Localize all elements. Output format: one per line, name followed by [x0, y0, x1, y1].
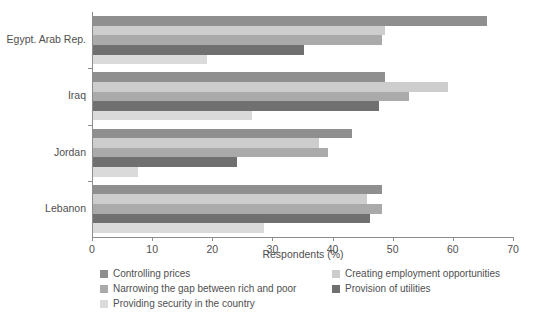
- bar-chart: 010203040506070 Egypt. Arab Rep.IraqJord…: [0, 0, 536, 323]
- x-tick-mark: [393, 237, 394, 241]
- bar-group: [93, 72, 514, 120]
- bar: [93, 223, 264, 233]
- x-tick-mark: [513, 237, 514, 241]
- legend-label: Providing security in the country: [113, 299, 255, 309]
- x-tick-mark: [333, 237, 334, 241]
- legend-row: Narrowing the gap between rich and poorP…: [100, 284, 520, 299]
- legend-swatch-icon: [100, 270, 108, 278]
- legend-item[interactable]: Creating employment opportunities: [332, 269, 500, 279]
- bar: [93, 167, 138, 177]
- legend-label: Creating employment opportunities: [345, 269, 500, 279]
- bar: [93, 138, 319, 148]
- bar: [93, 204, 382, 214]
- bar: [93, 148, 328, 158]
- legend-row: Controlling pricesCreating employment op…: [100, 269, 520, 284]
- bar: [93, 194, 367, 204]
- legend-label: Controlling prices: [113, 269, 190, 279]
- x-tick-mark: [212, 237, 213, 241]
- y-group-tick: [88, 181, 92, 182]
- x-tick-mark: [453, 237, 454, 241]
- legend-item[interactable]: Narrowing the gap between rich and poor: [100, 284, 332, 294]
- y-group-tick: [88, 68, 92, 69]
- bar-group: [93, 185, 514, 233]
- x-axis-title: Respondents (%): [92, 248, 514, 260]
- legend-item[interactable]: Controlling prices: [100, 269, 332, 279]
- category-label: Iraq: [0, 90, 86, 101]
- legend-row: Providing security in the country: [100, 299, 520, 314]
- legend-swatch-icon: [100, 285, 108, 293]
- bar-group: [93, 16, 514, 64]
- category-label: Egypt. Arab Rep.: [0, 34, 86, 45]
- x-axis-line: [92, 237, 514, 238]
- bar: [93, 72, 385, 82]
- bar: [93, 129, 352, 139]
- legend-swatch-icon: [100, 300, 108, 308]
- bar: [93, 26, 385, 36]
- bar: [93, 45, 304, 55]
- legend-swatch-icon: [332, 285, 340, 293]
- category-label: Jordan: [0, 147, 86, 158]
- bar-group: [93, 129, 514, 177]
- bar: [93, 35, 382, 45]
- legend-item[interactable]: Provision of utilities: [332, 284, 431, 294]
- legend-swatch-icon: [332, 270, 340, 278]
- plot-area: 010203040506070: [92, 12, 514, 237]
- x-tick-mark: [92, 237, 93, 241]
- bar: [93, 16, 487, 26]
- x-tick-mark: [152, 237, 153, 241]
- bar: [93, 111, 252, 121]
- legend-label: Provision of utilities: [345, 284, 431, 294]
- bar: [93, 157, 237, 167]
- legend-label: Narrowing the gap between rich and poor: [113, 284, 296, 294]
- bar: [93, 214, 370, 224]
- bar: [93, 92, 409, 102]
- x-tick-mark: [272, 237, 273, 241]
- category-label: Lebanon: [0, 203, 86, 214]
- bar: [93, 82, 448, 92]
- bar: [93, 185, 382, 195]
- y-group-tick: [88, 125, 92, 126]
- bar: [93, 101, 379, 111]
- chart-legend: Controlling pricesCreating employment op…: [100, 269, 520, 314]
- bar: [93, 55, 207, 65]
- legend-item[interactable]: Providing security in the country: [100, 299, 332, 309]
